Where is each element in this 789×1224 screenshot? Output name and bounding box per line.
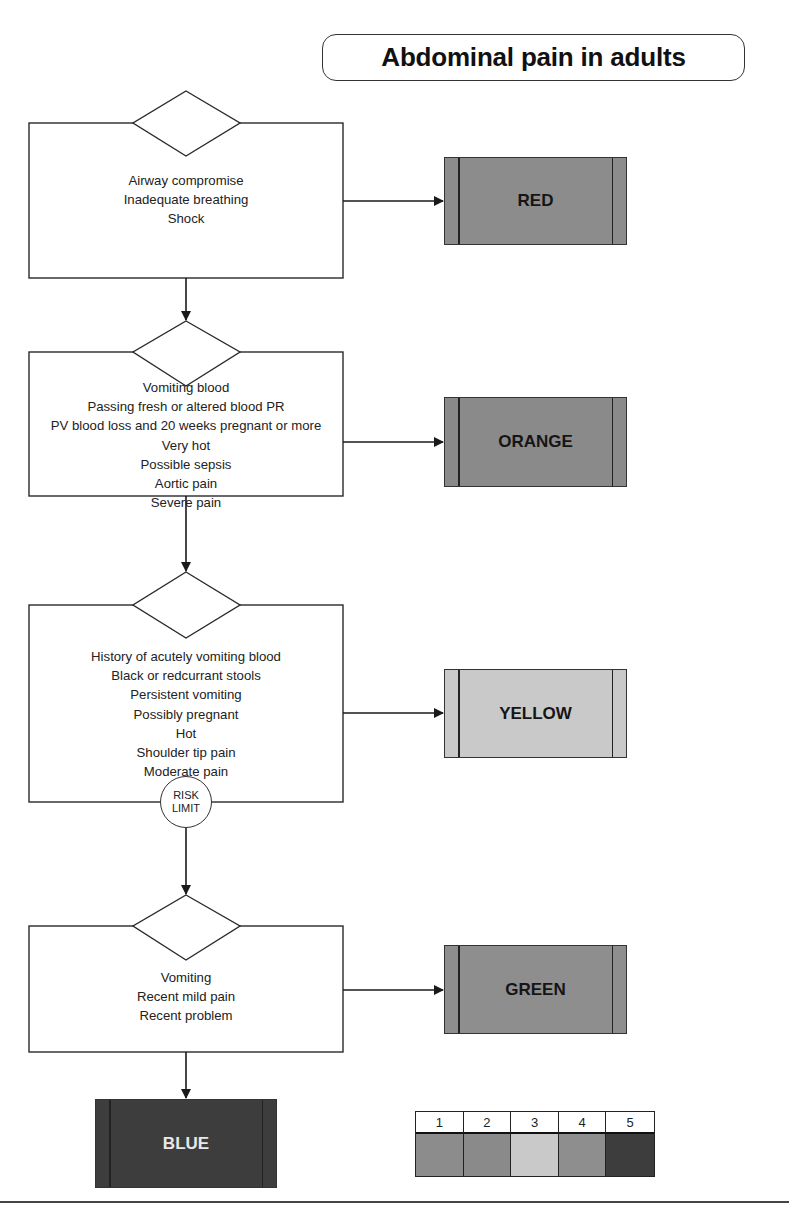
legend-header: 4: [559, 1112, 607, 1134]
criterion: Black or redcurrant stools: [30, 666, 342, 685]
criterion: Possible sepsis: [30, 455, 342, 474]
criteria-list-2: Vomiting blood Passing fresh or altered …: [30, 378, 342, 512]
criterion: Hot: [30, 724, 342, 743]
outcome-green: GREEN: [444, 945, 627, 1034]
legend-swatch: [511, 1134, 559, 1176]
criteria-list-1: Airway compromise Inadequate breathing S…: [30, 171, 342, 229]
criterion: Recent problem: [30, 1006, 342, 1025]
criterion: Very hot: [30, 436, 342, 455]
bottom-divider: [0, 1201, 789, 1203]
criterion: History of acutely vomiting blood: [30, 647, 342, 666]
outcome-red: RED: [444, 157, 627, 245]
legend-swatch: [606, 1134, 654, 1176]
title-bubble: Abdominal pain in adults: [322, 34, 745, 81]
priority-legend: 1 2 3 4 5: [415, 1111, 655, 1177]
legend-header: 1: [416, 1112, 464, 1134]
criterion: Airway compromise: [30, 171, 342, 190]
outcome-orange: ORANGE: [444, 397, 627, 487]
outcome-label: BLUE: [163, 1134, 209, 1154]
criterion: Vomiting: [30, 968, 342, 987]
outcome-label: YELLOW: [499, 704, 572, 724]
criteria-list-4: Vomiting Recent mild pain Recent problem: [30, 968, 342, 1026]
criterion: Aortic pain: [30, 474, 342, 493]
risk-limit-marker: RISK LIMIT: [160, 776, 212, 828]
outcome-label: ORANGE: [498, 432, 573, 452]
risk-limit-line1: RISK: [173, 789, 199, 802]
legend-swatch: [464, 1134, 512, 1176]
page-title: Abdominal pain in adults: [381, 42, 685, 73]
criterion: Shoulder tip pain: [30, 743, 342, 762]
criterion: PV blood loss and 20 weeks pregnant or m…: [30, 416, 342, 435]
criterion: Persistent vomiting: [30, 685, 342, 704]
risk-limit-line2: LIMIT: [172, 802, 200, 815]
criterion: Recent mild pain: [30, 987, 342, 1006]
criterion: Vomiting blood: [30, 378, 342, 397]
criterion: Severe pain: [30, 493, 342, 512]
criteria-list-3: History of acutely vomiting blood Black …: [30, 647, 342, 781]
criterion: Passing fresh or altered blood PR: [30, 397, 342, 416]
outcome-label: GREEN: [505, 980, 565, 1000]
criterion: Possibly pregnant: [30, 705, 342, 724]
outcome-label: RED: [518, 191, 554, 211]
legend-header: 3: [511, 1112, 559, 1134]
legend-swatch: [559, 1134, 607, 1176]
criterion: Inadequate breathing: [30, 190, 342, 209]
legend-header: 2: [464, 1112, 512, 1134]
legend-header: 5: [606, 1112, 654, 1134]
criterion: Shock: [30, 209, 342, 228]
legend-swatch: [416, 1134, 464, 1176]
outcome-yellow: YELLOW: [444, 669, 627, 758]
outcome-blue: BLUE: [95, 1099, 277, 1188]
